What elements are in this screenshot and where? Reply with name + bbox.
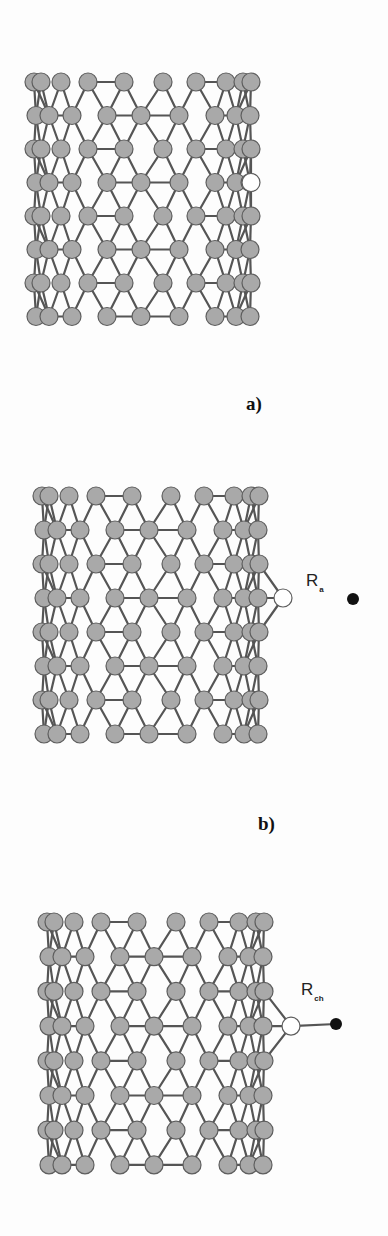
carbon-atom [183,1087,201,1105]
carbon-atom [167,913,185,931]
carbon-atom [217,140,235,158]
panel-label-b: b) [258,813,275,835]
carbon-atom [162,623,180,641]
carbon-atom [98,107,116,125]
carbon-atom [40,487,58,505]
carbon-atom [79,207,97,225]
carbon-atom [214,521,232,539]
carbon-atom [249,521,267,539]
substituent-atom [330,1018,342,1030]
carbon-atom [162,555,180,573]
carbon-atom [98,241,116,259]
carbon-atom [76,1017,94,1035]
carbon-atom [87,623,105,641]
carbon-atom [250,555,268,573]
carbon-atom [255,1052,273,1070]
carbon-atom [206,308,224,326]
carbon-atom [241,241,259,259]
substituent-label-subscript: a [319,585,324,594]
carbon-atom [225,487,243,505]
carbon-atom [40,308,58,326]
carbon-atom [65,913,83,931]
carbon-atom [183,948,201,966]
carbon-atom [241,308,259,326]
carbon-atom [106,657,124,675]
carbon-atom [111,1017,129,1035]
carbon-atom [132,107,150,125]
carbon-atom [60,623,78,641]
defect-atom [282,1017,300,1035]
carbon-atom [230,913,248,931]
carbon-atom [40,107,58,125]
carbon-atom [53,948,71,966]
carbon-atom [115,73,133,91]
carbon-atom [71,725,89,743]
carbon-atom [123,623,141,641]
carbon-atom [79,140,97,158]
carbon-atom [48,725,66,743]
carbon-atom [128,1121,146,1139]
substituent-label-subscript: ch [314,994,323,1003]
carbon-atom [63,308,81,326]
carbon-atom [60,555,78,573]
carbon-atom [45,1052,63,1070]
carbon-atom [71,521,89,539]
carbon-atom [250,691,268,709]
carbon-atom [40,555,58,573]
panel-b: Rab) [33,487,359,835]
carbon-atom [52,140,70,158]
carbon-atom [53,1156,71,1174]
carbon-atom [128,913,146,931]
carbon-atom [140,521,158,539]
carbon-atom [63,241,81,259]
carbon-atom [206,107,224,125]
carbon-atom [195,487,213,505]
carbon-atom [249,589,267,607]
carbon-atom [132,308,150,326]
carbon-atom [200,913,218,931]
carbon-atom [111,1087,129,1105]
carbon-atom [106,725,124,743]
carbon-atom [167,1052,185,1070]
carbon-atom [71,589,89,607]
carbon-atom [106,589,124,607]
carbon-atom [219,948,237,966]
carbon-atom [128,1052,146,1070]
panel-label-a: a) [246,393,262,415]
carbon-atom [140,589,158,607]
carbon-atom [170,107,188,125]
carbon-atom [255,982,273,1000]
carbon-atom [217,274,235,292]
carbon-atom [32,73,50,91]
carbon-atom [187,207,205,225]
carbon-atom [123,691,141,709]
carbon-atom [76,948,94,966]
carbon-atom [154,73,172,91]
carbon-atom [145,948,163,966]
carbon-atom [76,1156,94,1174]
carbon-atom [178,521,196,539]
carbon-atom [123,555,141,573]
carbon-atom [200,1052,218,1070]
carbon-atom [162,487,180,505]
carbon-atom [76,1087,94,1105]
carbon-atom [200,982,218,1000]
carbon-atom [187,274,205,292]
carbon-atom [230,982,248,1000]
carbon-atom [230,1121,248,1139]
carbon-atom [214,589,232,607]
carbon-atom [225,691,243,709]
carbon-atom [154,274,172,292]
figure-canvas: a)Rab)Rch [0,0,388,1236]
carbon-atom [200,1121,218,1139]
carbon-atom [187,73,205,91]
carbon-atom [79,73,97,91]
carbon-atom [145,1156,163,1174]
carbon-atom [63,107,81,125]
carbon-atom [170,174,188,192]
carbon-atom [45,982,63,1000]
carbon-atom [87,487,105,505]
carbon-atom [225,623,243,641]
carbon-atom [92,1121,110,1139]
carbon-atom [48,657,66,675]
